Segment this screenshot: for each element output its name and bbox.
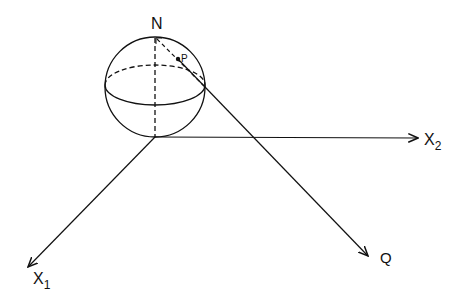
label-x2: X2: [424, 131, 442, 153]
projection-line-outer: [178, 59, 368, 256]
label-p: P: [181, 53, 188, 64]
label-x2-letter: X: [424, 131, 435, 148]
point-p-dot: [176, 57, 180, 61]
axis-x1: [28, 137, 155, 267]
label-x1-subscript: 1: [44, 278, 51, 292]
label-x1: X1: [33, 270, 51, 292]
label-q: Q: [380, 249, 392, 266]
label-x1-letter: X: [33, 270, 44, 287]
label-x2-subscript: 2: [435, 139, 442, 153]
stereographic-projection-diagram: N P Q X2 X1: [0, 0, 468, 302]
label-north: N: [151, 15, 163, 32]
axis-x2: [155, 137, 418, 138]
